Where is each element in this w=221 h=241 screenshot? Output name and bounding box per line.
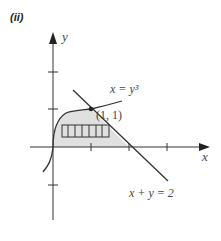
curve-label: x = y³ (110, 82, 138, 97)
y-axis-arrow-icon (49, 32, 57, 44)
intersection-point (89, 107, 94, 112)
y-axis-label: y (62, 29, 68, 45)
line-label: x + y = 2 (129, 186, 174, 201)
point-label: (1, 1) (96, 108, 122, 123)
x-axis-label: x (202, 149, 208, 165)
